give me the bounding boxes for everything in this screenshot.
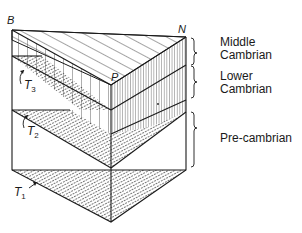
bracket-middle-cambrian <box>191 38 197 65</box>
t1-subscript: 1 <box>21 192 25 201</box>
t2-subscript: 2 <box>34 131 38 140</box>
corner-label-p: P <box>111 71 118 84</box>
pre-cambrian-line1: Pre-cambrian <box>220 132 292 145</box>
strata-brackets <box>191 38 197 167</box>
t3-subscript: 3 <box>31 85 35 94</box>
block-diagram <box>0 0 302 233</box>
surface-label-t3: T3 <box>24 79 36 96</box>
stratum-label-pre-cambrian: Pre-cambrian <box>220 132 292 145</box>
stratum-label-lower-cambrian: Lower Cambrian <box>220 70 272 96</box>
corner-label-b: B <box>7 14 14 27</box>
corner-label-n: N <box>178 23 186 36</box>
bracket-lower-cambrian <box>191 66 197 98</box>
surface-label-t2: T2 <box>27 125 39 142</box>
stratum-label-middle-cambrian: Middle Cambrian <box>220 36 272 62</box>
middle-cambrian-line2: Cambrian <box>220 49 272 62</box>
lower-cambrian-line2: Cambrian <box>220 83 272 96</box>
bracket-pre-cambrian <box>191 112 197 167</box>
center-mark <box>157 103 159 105</box>
surface-label-t1: T1 <box>14 186 26 203</box>
